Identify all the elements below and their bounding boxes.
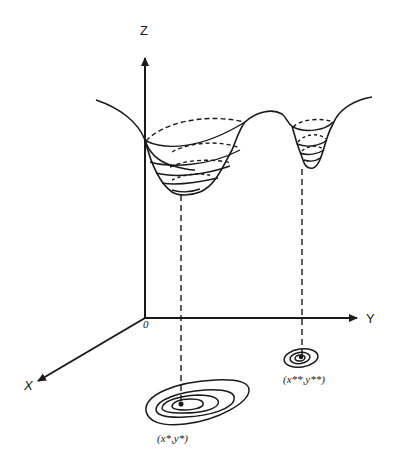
origin-label: 0 [143, 318, 149, 330]
diagram-drawing [0, 0, 395, 475]
local-minimum-contours [283, 347, 319, 370]
diagram-canvas: Z Y X 0 (x*,y*) (x**,y**) [0, 0, 395, 475]
axes [38, 58, 357, 381]
x-axis [38, 318, 145, 381]
local-minimum-bowl-rings [293, 119, 333, 161]
y-axis-label: Y [366, 311, 375, 326]
z-axis-label: Z [140, 23, 148, 38]
x-axis-label: X [24, 378, 33, 393]
local-minimum-label: (x**,y**) [283, 373, 325, 385]
global-minimum-label: (x*,y*) [157, 432, 188, 444]
global-minimum-contours [146, 380, 249, 425]
projection-lines [181, 169, 302, 403]
